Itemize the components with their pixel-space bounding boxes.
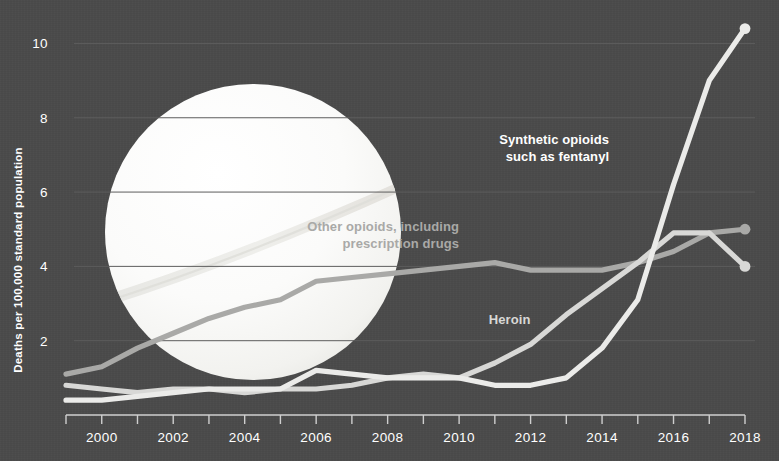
y-tick-label-10: 10 — [32, 36, 48, 51]
x-tick-label-2006: 2006 — [300, 430, 332, 445]
series-endpoint-0 — [740, 224, 751, 235]
series-label-line: Other opioids, including — [307, 219, 459, 234]
x-axis — [66, 415, 745, 424]
x-tick-label-2002: 2002 — [157, 430, 189, 445]
x-tick-label-2000: 2000 — [86, 430, 118, 445]
y-tick-label-8: 8 — [40, 111, 48, 126]
series-endpoint-1 — [740, 261, 751, 272]
series-label-line: Synthetic opioids — [499, 132, 609, 147]
series-label-2: Synthetic opioidssuch as fentanyl — [499, 132, 609, 164]
x-tick-label-2010: 2010 — [443, 430, 475, 445]
series-endpoint-2 — [740, 23, 751, 34]
x-tick-label-2004: 2004 — [229, 430, 261, 445]
series-label-line: Heroin — [489, 312, 531, 327]
y-axis-title: Deaths per 100,000 standard population — [12, 147, 24, 373]
x-tick-label-2012: 2012 — [515, 430, 547, 445]
series-label-line: such as fentanyl — [506, 149, 609, 164]
x-axis-tick-labels: 2000200220042006200820102012201420162018 — [86, 430, 761, 445]
y-axis-tick-labels: 246810 — [32, 36, 48, 348]
y-tick-label-2: 2 — [40, 334, 48, 349]
x-tick-label-2018: 2018 — [729, 430, 761, 445]
chart-canvas: 246810 200020022004200620082010201220142… — [0, 0, 779, 461]
x-tick-label-2008: 2008 — [372, 430, 404, 445]
x-tick-label-2016: 2016 — [658, 430, 690, 445]
y-tick-label-4: 4 — [40, 259, 48, 274]
series-label-line: prescription drugs — [342, 236, 459, 251]
y-tick-label-6: 6 — [40, 185, 48, 200]
series-label-1: Heroin — [489, 312, 531, 327]
opioid-overdose-death-rate-chart: 246810 200020022004200620082010201220142… — [0, 0, 779, 461]
x-tick-label-2014: 2014 — [586, 430, 618, 445]
